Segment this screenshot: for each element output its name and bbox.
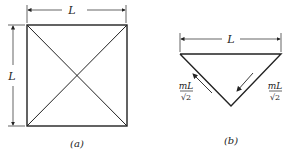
diagram-canvas: L L (a) L mL √2 mL √2 (b) [0,0,289,158]
dim-label-side: L [7,70,15,83]
triangle-outline [180,54,281,106]
force-right-num: mL [268,81,283,91]
figure-a: L L (a) [7,4,127,149]
caption-a: (a) [70,138,84,149]
force-right-den: √2 [270,93,280,102]
force-left-den: √2 [181,93,191,102]
caption-b: (b) [224,135,238,146]
force-left-num: mL [179,81,194,91]
dim-label-top: L [67,4,75,17]
force-arrow-right [237,73,253,91]
dim-label-b: L [226,33,234,46]
figure-b: L mL √2 mL √2 (b) [179,33,283,146]
